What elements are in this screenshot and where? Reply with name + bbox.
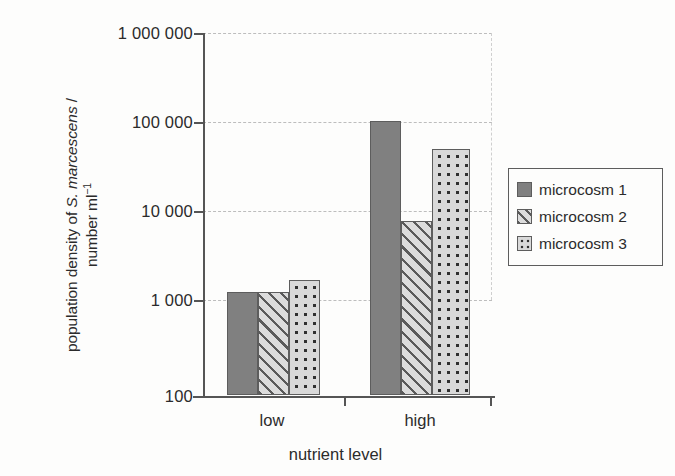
legend-item-microcosm-3: microcosm 3 — [517, 230, 656, 257]
y-tick-label-10000: 10 000 — [141, 203, 193, 220]
legend-swatch-solid-icon — [517, 182, 532, 197]
y-axis-title-prefix: population density of — [63, 208, 80, 352]
y-tick-mark-1000000 — [194, 33, 204, 35]
y-tick-label-100: 100 — [165, 388, 193, 405]
y-axis-tick-labels: 1 000 000 100 000 10 000 1 000 100 — [80, 0, 193, 476]
x-axis-title: nutrient level — [0, 445, 675, 464]
y-tick-mark-100 — [194, 396, 204, 398]
x-tick-mark-right — [490, 396, 492, 406]
x-tick-label-low: low — [232, 412, 312, 429]
legend-swatch-hatch-icon — [517, 209, 532, 224]
plot-right-border — [491, 33, 492, 300]
y-tick-mark-1000 — [194, 300, 204, 302]
bar-high-microcosm-3 — [432, 149, 470, 395]
bar-low-microcosm-3 — [289, 280, 320, 395]
gridline-1000000 — [203, 33, 492, 34]
x-axis-title-text: nutrient level — [289, 445, 383, 464]
bar-low-microcosm-2 — [258, 292, 289, 395]
y-axis-line — [203, 33, 205, 397]
y-tick-label-1000000: 1 000 000 — [118, 25, 193, 42]
bar-low-microcosm-1 — [227, 292, 258, 395]
legend-swatch-dots-icon — [517, 236, 532, 251]
y-tick-mark-100000 — [194, 122, 204, 124]
legend-item-microcosm-1: microcosm 1 — [517, 176, 656, 203]
legend: microcosm 1 microcosm 2 microcosm 3 — [508, 168, 663, 266]
gridline-100000 — [203, 122, 492, 123]
legend-label-microcosm-3: microcosm 3 — [539, 236, 627, 252]
y-axis-title-line-1: population density of S. marcescens / — [62, 98, 82, 352]
bar-high-microcosm-1 — [370, 121, 401, 395]
legend-label-microcosm-2: microcosm 2 — [539, 209, 627, 225]
y-tick-mark-10000 — [194, 211, 204, 213]
chart-figure: population density of S. marcescens / nu… — [0, 0, 675, 476]
legend-label-microcosm-1: microcosm 1 — [539, 182, 627, 198]
y-tick-label-1000: 1 000 — [151, 292, 193, 309]
plot-area — [203, 33, 492, 396]
x-tick-label-high: high — [380, 412, 460, 429]
y-axis-title-species: S. marcescens — [63, 106, 80, 207]
legend-item-microcosm-2: microcosm 2 — [517, 203, 656, 230]
x-tick-mark-center — [344, 396, 346, 406]
y-axis-title-suffix: / — [63, 98, 80, 106]
bar-high-microcosm-2 — [401, 221, 432, 395]
y-tick-label-100000: 100 000 — [132, 114, 193, 131]
